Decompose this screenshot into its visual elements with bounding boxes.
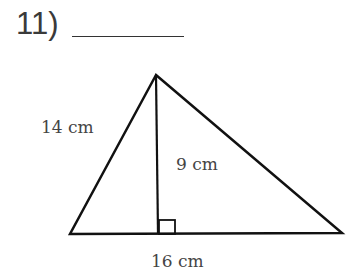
right-angle-marker [159,220,175,234]
side-label: 14 cm [41,117,94,137]
height-line [156,75,158,234]
height-label: 9 cm [176,154,218,174]
triangle-diagram: 14 cm 9 cm 16 cm [0,0,359,278]
base-label: 16 cm [151,251,204,271]
